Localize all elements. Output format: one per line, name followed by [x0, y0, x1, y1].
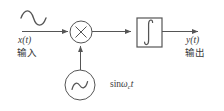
integrator-block: [137, 18, 162, 47]
output-signal-label: y(t): [186, 36, 199, 46]
output-cjk-label: 输出: [185, 48, 205, 58]
input-waveform-icon: [21, 11, 46, 25]
carrier-time: t: [131, 79, 134, 89]
input-cjk-label: 输入: [17, 48, 37, 58]
input-signal-label: x(t): [18, 36, 31, 46]
carrier-omega: ω: [121, 79, 128, 89]
carrier-prefix: sin: [110, 79, 121, 89]
carrier-label: sinωct: [110, 80, 133, 90]
signal-block-diagram: x(t) 输入 y(t) 输出 sinωct: [0, 0, 224, 111]
